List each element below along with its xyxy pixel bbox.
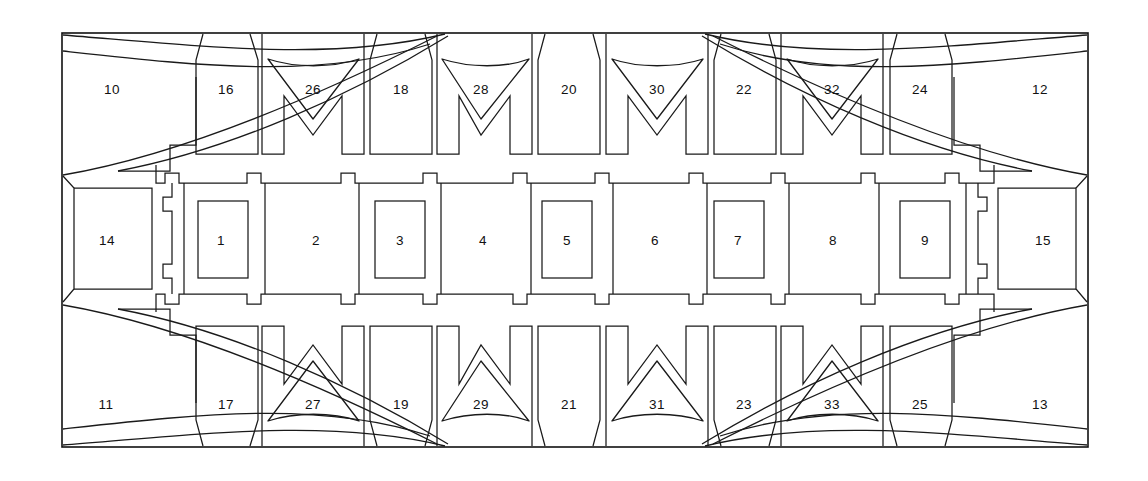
central-band-wall — [156, 165, 994, 312]
cell-label-27: 27 — [305, 397, 321, 412]
central-band-dividers — [265, 183, 879, 294]
cell-label-24: 24 — [912, 82, 928, 97]
cell-label-13: 13 — [1032, 397, 1048, 412]
cell-label-15: 15 — [1035, 233, 1051, 248]
cell-label-23: 23 — [736, 397, 752, 412]
bottom-cell-17 — [196, 326, 258, 446]
cell-label-9: 9 — [921, 233, 929, 248]
cell-label-3: 3 — [396, 233, 404, 248]
diagram-canvas: 10 16 26 18 28 20 30 22 32 24 12 14 15 1… — [0, 0, 1148, 481]
cell-label-28: 28 — [473, 82, 489, 97]
bottom-cell-29 — [437, 326, 532, 446]
cell-label-11: 11 — [99, 397, 114, 412]
cell-labels: 10 16 26 18 28 20 30 22 32 24 12 14 15 1… — [99, 82, 1051, 412]
cell-label-16: 16 — [218, 82, 234, 97]
central-band-inner-rects — [198, 201, 950, 278]
cell-label-10: 10 — [104, 82, 120, 97]
cell-label-33: 33 — [824, 397, 840, 412]
cell-label-5: 5 — [563, 233, 571, 248]
cell-label-14: 14 — [99, 233, 115, 248]
cell-label-4: 4 — [479, 233, 487, 248]
cell-label-1: 1 — [217, 233, 225, 248]
cell-label-19: 19 — [393, 397, 409, 412]
cell-label-32: 32 — [824, 82, 840, 97]
cell-label-20: 20 — [561, 82, 577, 97]
cell-label-17: 17 — [218, 397, 234, 412]
bottom-band — [63, 305, 1087, 446]
cell-label-29: 29 — [473, 397, 489, 412]
cell-label-8: 8 — [829, 233, 837, 248]
bottom-cell-21 — [538, 326, 600, 446]
cell-label-30: 30 — [649, 82, 665, 97]
cell-label-2: 2 — [312, 233, 320, 248]
bottom-cell-33 — [781, 326, 883, 446]
cell-label-26: 26 — [305, 82, 321, 97]
bottom-cell-31 — [606, 326, 708, 446]
cell-label-12: 12 — [1032, 82, 1048, 97]
cell-label-31: 31 — [649, 397, 665, 412]
cell-label-6: 6 — [651, 233, 659, 248]
cell-label-22: 22 — [736, 82, 752, 97]
top-band — [63, 34, 1087, 175]
cell-label-7: 7 — [734, 233, 742, 248]
pattern-plan-diagram: 10 16 26 18 28 20 30 22 32 24 12 14 15 1… — [0, 0, 1148, 481]
cell-label-25: 25 — [912, 397, 928, 412]
cell-label-18: 18 — [393, 82, 409, 97]
cell-label-21: 21 — [561, 397, 577, 412]
